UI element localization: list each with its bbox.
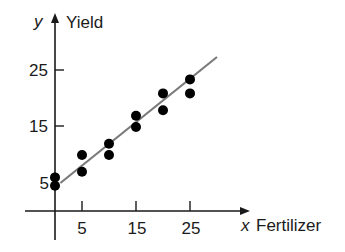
y-axis-arrow-icon	[51, 13, 59, 23]
x-axis-title: Fertilizer	[256, 216, 322, 235]
data-point	[185, 88, 195, 98]
data-point	[158, 105, 168, 115]
data-point	[158, 88, 168, 98]
data-point	[131, 122, 141, 132]
data-point	[131, 111, 141, 121]
y-tick-label: 25	[29, 61, 48, 80]
data-point	[104, 139, 114, 149]
x-tick-label: 5	[77, 219, 86, 238]
y-tick-label: 5	[40, 174, 49, 193]
x-tick-label: 25	[182, 219, 201, 238]
y-variable-label: y	[33, 12, 44, 31]
x-variable-label: x	[240, 216, 250, 235]
x-axis: 5 15 25 x Fertilizer	[25, 201, 322, 238]
x-axis-arrow-icon	[240, 207, 250, 215]
y-tick-label: 15	[29, 117, 48, 136]
x-tick-label: 15	[128, 219, 147, 238]
data-point	[77, 150, 87, 160]
data-point	[104, 150, 114, 160]
data-point	[185, 74, 195, 84]
data-point	[50, 181, 60, 191]
data-point	[77, 167, 87, 177]
scatter-chart: 5 15 25 x Fertilizer 25 15 5 y Yield	[0, 0, 345, 252]
y-axis-title: Yield	[66, 13, 103, 32]
y-axis: 25 15 5 y Yield	[29, 12, 103, 240]
